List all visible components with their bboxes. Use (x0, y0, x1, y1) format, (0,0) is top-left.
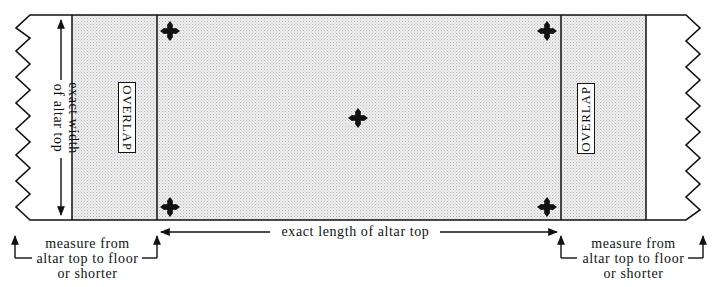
overlap-left-region (72, 15, 157, 220)
overlap-left-label: OVERLAP (119, 85, 135, 151)
overlap-right-region (561, 15, 646, 220)
drop-label-left: measure from altar top to floor or short… (30, 236, 145, 281)
width-label: exact width of altar top (51, 73, 81, 163)
drop-left-line1: measure from (30, 236, 145, 251)
drop-left-line3: or shorter (30, 266, 145, 281)
overlap-left-label-box: OVERLAP (118, 82, 136, 153)
drop-left-line2: altar top to floor (30, 251, 145, 266)
overlap-right-label-box: OVERLAP (577, 83, 595, 154)
drop-right-line3: or shorter (576, 266, 691, 281)
overlap-right-label: OVERLAP (578, 86, 594, 152)
length-label-text: exact length of altar top (282, 224, 430, 239)
width-label-line2: of altar top (51, 73, 66, 163)
length-label: exact length of altar top (273, 224, 438, 239)
drop-label-right: measure from altar top to floor or short… (576, 236, 691, 281)
drop-right-line2: altar top to floor (576, 251, 691, 266)
width-label-line1: exact width (66, 73, 81, 163)
drop-right-line1: measure from (576, 236, 691, 251)
